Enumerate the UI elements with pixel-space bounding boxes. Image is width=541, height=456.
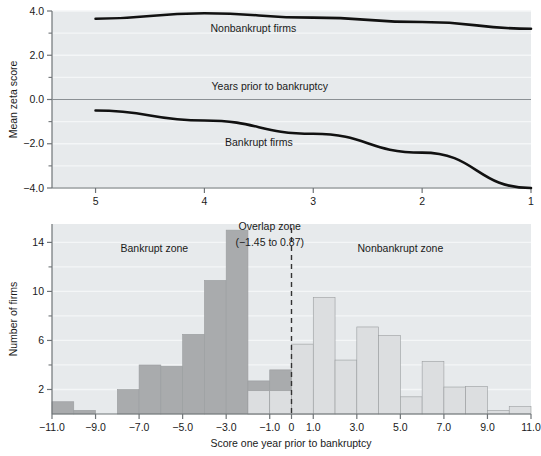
x-tick-label: 3	[310, 195, 316, 207]
histogram-bar	[204, 280, 226, 414]
chart-annotation: Overlap zone	[239, 220, 302, 232]
histogram-bar	[509, 407, 531, 414]
histogram-bar	[161, 366, 183, 414]
histogram-bar	[52, 402, 74, 414]
x-tick-label: −3.0	[216, 421, 237, 433]
chart-annotation: (−1.45 to 0.87)	[235, 236, 304, 248]
chart-annotation: Bankrupt firms	[225, 136, 293, 148]
y-tick-label: 2.0	[29, 49, 44, 61]
x-tick-label: 11.0	[521, 421, 541, 433]
y-tick-label: 2	[38, 383, 44, 395]
chart-annotation: Years prior to bankruptcy	[212, 80, 329, 92]
histogram-bar	[444, 387, 466, 414]
histogram-y-axis-label: Number of firms	[7, 282, 19, 357]
histogram-bar	[248, 391, 270, 414]
x-tick-label: 5.0	[393, 421, 408, 433]
histogram-bar	[117, 389, 139, 414]
y-tick-label: 6	[38, 334, 44, 346]
x-tick-label: 1.0	[306, 421, 321, 433]
y-tick-label: 10	[32, 285, 44, 297]
x-tick-label: 2	[419, 195, 425, 207]
histogram-bar	[466, 386, 488, 414]
x-tick-label: 1	[528, 195, 534, 207]
histogram-bar	[379, 336, 401, 414]
y-tick-label: 14	[32, 236, 44, 248]
x-tick-label: 4	[201, 195, 207, 207]
chart-annotation: Nonbankrupt zone	[357, 242, 443, 254]
histogram-bar	[292, 344, 314, 414]
histogram-bar	[226, 230, 248, 414]
histogram-x-axis-label: Score one year prior to bankruptcy	[210, 437, 372, 449]
chart-annotation: Bankrupt zone	[120, 242, 188, 254]
histogram-bar	[183, 334, 205, 414]
x-tick-label: −5.0	[172, 421, 193, 433]
x-tick-label: 5	[93, 195, 99, 207]
histogram-bar	[313, 298, 335, 414]
histogram-bar	[357, 327, 379, 414]
x-tick-label: −1.0	[259, 421, 280, 433]
histogram-bar	[422, 361, 444, 414]
figure-container: 4.02.00.0−2.0−4.0 54321 Mean zeta score …	[0, 0, 541, 456]
x-tick-label: 3.0	[350, 421, 365, 433]
y-tick-label: 4.0	[29, 5, 44, 17]
y-tick-label: −2.0	[23, 137, 44, 149]
x-tick-label: 9.0	[480, 421, 495, 433]
x-tick-label: −11.0	[39, 421, 65, 433]
figure-svg: 4.02.00.0−2.0−4.0 54321 Mean zeta score …	[0, 0, 541, 456]
line-chart-y-axis-label: Mean zeta score	[7, 61, 19, 139]
histogram-bar	[335, 360, 357, 414]
x-tick-label: 0	[289, 421, 295, 433]
histogram-bar	[270, 391, 292, 414]
chart-annotation: Nonbankrupt firms	[211, 22, 297, 34]
histogram-bar	[139, 365, 161, 414]
x-tick-label: −9.0	[85, 421, 106, 433]
histogram-bar	[400, 397, 422, 414]
x-tick-label: −7.0	[129, 421, 150, 433]
line-chart-panel: 4.02.00.0−2.0−4.0 54321 Mean zeta score …	[7, 5, 534, 207]
x-tick-label: 7.0	[437, 421, 452, 433]
y-tick-label: −4.0	[23, 182, 44, 194]
y-tick-label: 0.0	[29, 93, 44, 105]
